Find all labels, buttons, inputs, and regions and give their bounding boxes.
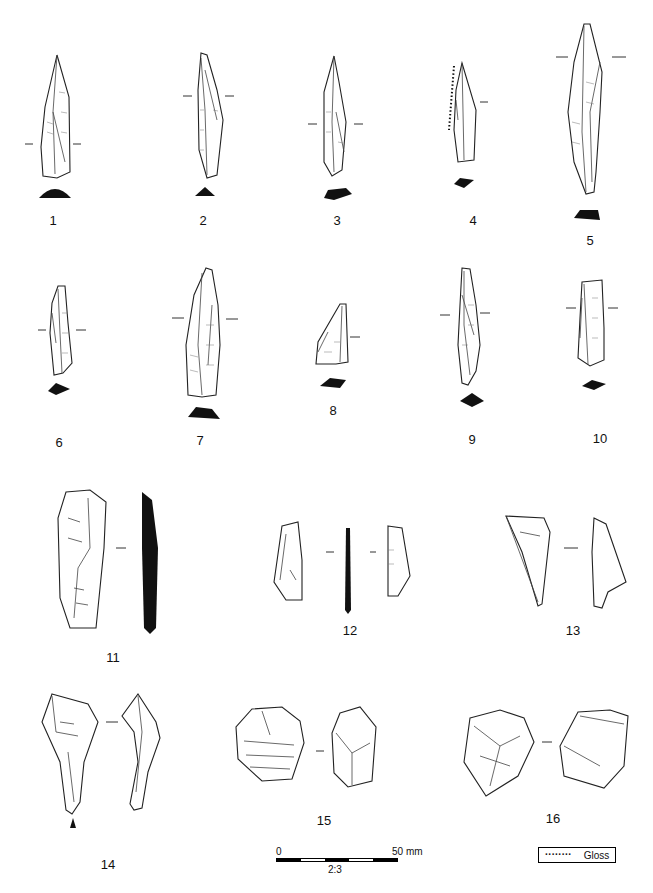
- artifact-12-drawing: [272, 520, 432, 620]
- artifact-10-drawing: [566, 278, 622, 398]
- artifact-15-drawing: [232, 703, 412, 799]
- artifact-label-9: 9: [468, 432, 475, 447]
- artifact-label-2: 2: [199, 213, 206, 228]
- artifact-label-14: 14: [101, 857, 115, 872]
- legend-box: ········ Gloss: [538, 847, 616, 863]
- artifact-5-drawing: [556, 22, 628, 228]
- artifact-label-8: 8: [329, 403, 336, 418]
- artifact-6-drawing: [30, 283, 90, 399]
- artifact-8-drawing: [306, 302, 364, 394]
- gloss-dotted-line-icon: ········: [545, 850, 572, 860]
- artifact-label-3: 3: [333, 213, 340, 228]
- artifact-label-5: 5: [586, 233, 593, 248]
- artifact-11-drawing: [48, 488, 164, 638]
- artifact-label-4: 4: [469, 213, 476, 228]
- artifact-14-drawing: [38, 692, 178, 828]
- artifact-label-15: 15: [317, 813, 331, 828]
- artifact-4-drawing: [444, 60, 490, 190]
- artifact-label-7: 7: [196, 433, 203, 448]
- artifact-label-11: 11: [106, 650, 120, 665]
- legend-label: Gloss: [584, 850, 610, 861]
- artifact-label-12: 12: [343, 623, 357, 638]
- artifact-2-drawing: [183, 50, 235, 200]
- artifact-label-13: 13: [566, 623, 580, 638]
- scale-ratio: 2:3: [328, 864, 342, 875]
- scale-segments: [276, 858, 398, 862]
- artifact-1-drawing: [25, 52, 85, 202]
- artifact-9-drawing: [440, 265, 496, 409]
- artifact-label-10: 10: [593, 431, 607, 446]
- artifact-label-6: 6: [55, 435, 62, 450]
- artifact-label-1: 1: [49, 213, 56, 228]
- artifact-3-drawing: [308, 52, 364, 200]
- scale-end-label: 50 mm: [392, 846, 423, 857]
- scale-bar: 0 50 mm 2:3: [276, 846, 396, 880]
- artifact-7-drawing: [172, 265, 238, 425]
- artifact-13-drawing: [502, 512, 628, 612]
- artifact-16-drawing: [460, 706, 653, 806]
- scale-start-label: 0: [276, 846, 282, 857]
- artifact-label-16: 16: [546, 811, 560, 826]
